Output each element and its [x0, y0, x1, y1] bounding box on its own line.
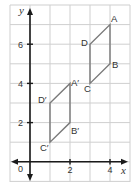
y-tick-label-6: 6	[18, 40, 23, 50]
x-axis-left-arrow-icon	[11, 159, 18, 165]
x-tick-label-4: 4	[108, 165, 113, 175]
origin-label: 0	[18, 164, 23, 174]
y-axis-label: y	[18, 4, 24, 16]
vertex-label-d: D	[81, 37, 88, 48]
y-tick-label-2: 2	[18, 118, 23, 128]
x-axis-label: x	[120, 164, 126, 176]
vertex-label-a: A	[111, 13, 118, 24]
y-tick-label-4: 4	[18, 79, 23, 89]
x-tick-label-2: 2	[68, 165, 73, 175]
parallelogram-abcd	[90, 25, 110, 84]
vertex-label-b-prime: B′	[71, 125, 79, 136]
coordinate-grid-diagram: 0 2 4 2 4 6 x y A B C D A′ B′ C′ D′	[0, 0, 137, 184]
vertex-label-b: B	[112, 59, 118, 70]
y-axis-up-arrow-icon	[27, 8, 33, 15]
vertex-label-d-prime: D′	[38, 94, 47, 105]
parallelogram-abcd-prime	[50, 83, 70, 142]
vertex-label-c-prime: C′	[40, 142, 49, 153]
vertex-label-a-prime: A′	[71, 77, 79, 88]
vertex-label-c: C	[84, 83, 91, 94]
y-axis-down-arrow-icon	[27, 174, 33, 181]
